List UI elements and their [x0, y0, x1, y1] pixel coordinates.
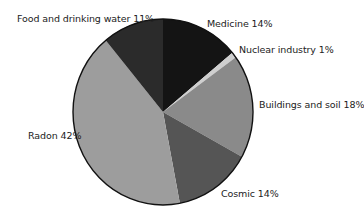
label-cosmic: Cosmic 14%	[221, 188, 279, 199]
label-radon: Radon 42%	[28, 130, 81, 141]
label-buildings: Buildings and soil 18%	[259, 99, 364, 110]
label-medicine: Medicine 14%	[207, 18, 272, 29]
label-nuclear: Nuclear industry 1%	[239, 44, 334, 55]
label-food: Food and drinking water 11%	[17, 13, 154, 24]
